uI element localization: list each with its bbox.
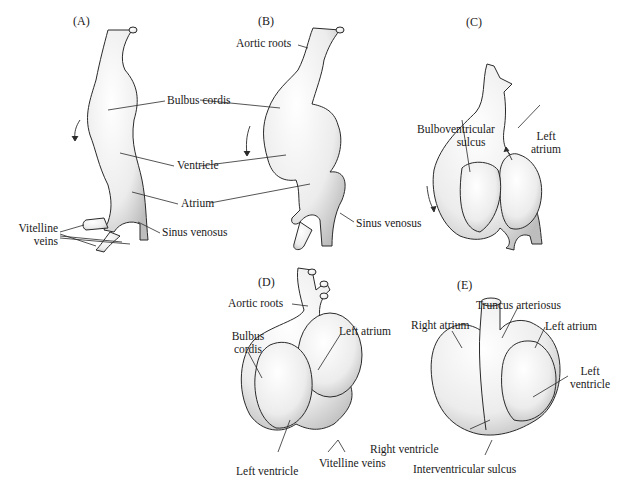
label-sinus-venosus-a: Sinus venosus — [162, 226, 228, 239]
label-right-atrium: Right atrium — [411, 319, 469, 332]
label-interventricular-sulcus: Interventricular sulcus — [413, 463, 516, 476]
panel-label-b: (B) — [258, 14, 274, 29]
label-left-ventricle-d: Left ventricle — [236, 465, 298, 478]
label-bulbus-cordis-d: Bulbus cordis — [228, 330, 268, 356]
panel-label-a: (A) — [73, 14, 90, 29]
label-left-ventricle-e: Left ventricle — [565, 365, 615, 391]
label-vitelline-veins-a: Vitelline veins — [8, 222, 58, 248]
label-aortic-roots-d: Aortic roots — [228, 297, 283, 310]
panel-c-heart — [433, 64, 542, 250]
panel-label-c: (C) — [466, 15, 482, 30]
label-right-ventricle: Right ventricle — [370, 443, 439, 456]
label-left-atrium-c: Left atrium — [526, 130, 566, 156]
panel-b-looping-heart — [264, 27, 346, 250]
label-vitelline-veins-d: Vitelline veins — [319, 457, 386, 470]
label-bulbus-cordis: Bulbus cordis — [167, 94, 231, 107]
label-left-atrium-d: Left atrium — [339, 325, 391, 338]
label-atrium: Atrium — [181, 197, 214, 210]
label-sinus-venosus-b: Sinus venosus — [356, 217, 422, 230]
label-truncus-arteriosus: Truncus arteriosus — [476, 299, 561, 312]
panel-label-d: (D) — [258, 275, 275, 290]
label-aortic-roots-b: Aortic roots — [236, 37, 291, 50]
label-left-atrium-e: Left atrium — [545, 320, 597, 333]
panel-a-heart-tube — [83, 27, 148, 252]
panel-label-e: (E) — [457, 278, 472, 293]
label-bulboventricular-sulcus: Bulboventricular sulcus — [406, 123, 506, 149]
label-ventricle: Ventricle — [177, 159, 219, 172]
heart-development-illustration — [0, 0, 620, 488]
